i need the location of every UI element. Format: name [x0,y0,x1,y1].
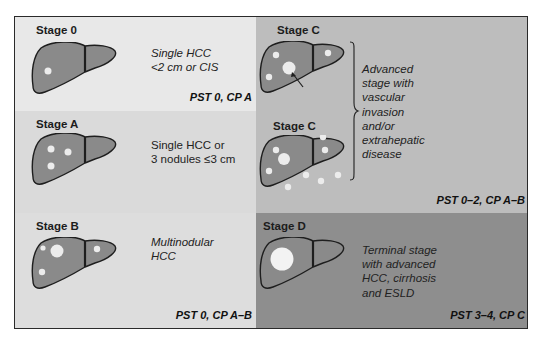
stage-b-criteria: PST 0, CP A–B [176,309,252,321]
stage-b-desc-line-1: Multinodular [151,235,214,249]
stage-c-desc-line-5: and/or [362,119,425,133]
stage-c-desc-line-2: stage with [362,76,425,90]
stage-a-title: Stage A [36,118,78,130]
stage-0-criteria: PST 0, CP A [190,91,252,103]
stage-d-desc-line-1: Terminal stage [362,243,437,257]
stage-a-panel: Stage A Single HCC or 3 nodules ≤3 cm [15,111,256,213]
stage-d-criteria: PST 3–4, CP C [450,309,525,321]
stage-c-desc-line-7: disease [362,147,425,161]
stage-c-desc-line-1: Advanced [362,62,425,76]
liver-stage-a-icon [31,133,121,189]
stage-a-desc-line-1: Single HCC or [151,138,235,152]
stage-c-extrahepatic-title: Stage C [273,120,316,132]
brace-icon [348,41,360,181]
stage-b-description: Multinodular HCC [151,235,214,263]
bclc-staging-diagram: Stage 0 Single HCC <2 cm or CIS PST 0, C… [14,16,528,329]
stage-d-desc-line-4: and ESLD [362,286,437,300]
stage-d-description: Terminal stage with advanced HCC, cirrho… [362,243,437,300]
liver-stage-c-vascular-icon [259,41,349,101]
stage-c-desc-line-4: invasion [362,105,425,119]
stage-0-desc-line-2: <2 cm or CIS [151,60,218,74]
liver-stage-c-extrahepatic-icon [259,135,359,207]
liver-stage-b-icon [31,237,121,293]
stage-b-desc-line-2: HCC [151,249,214,263]
stage-0-desc-line-1: Single HCC [151,46,218,60]
stage-b-panel: Stage B Multinodular HCC PST 0, CP A–B [15,213,256,329]
stage-a-desc-line-2: 3 nodules ≤3 cm [151,152,235,166]
stage-0-title: Stage 0 [36,24,77,36]
stage-0-panel: Stage 0 Single HCC <2 cm or CIS PST 0, C… [15,17,256,111]
stage-d-desc-line-3: HCC, cirrhosis [362,271,437,285]
stage-c-desc-line-6: extrahepatic [362,133,425,147]
stage-c-criteria: PST 0–2, CP A–B [437,194,525,206]
stage-c-description: Advanced stage with vascular invasion an… [362,62,425,161]
stage-d-panel: Stage D Terminal stage with advanced HCC… [256,213,528,329]
stage-c-panel: Stage C Stage C [256,17,528,213]
stage-a-description: Single HCC or 3 nodules ≤3 cm [151,138,235,166]
liver-stage-0-icon [31,42,121,98]
liver-stage-d-icon [259,237,349,297]
stage-d-desc-line-2: with advanced [362,257,437,271]
stage-0-description: Single HCC <2 cm or CIS [151,46,218,74]
stage-b-title: Stage B [36,220,79,232]
stage-c-vascular-title: Stage C [277,24,320,36]
stage-d-title: Stage D [263,220,306,232]
stage-c-desc-line-3: vascular [362,90,425,104]
